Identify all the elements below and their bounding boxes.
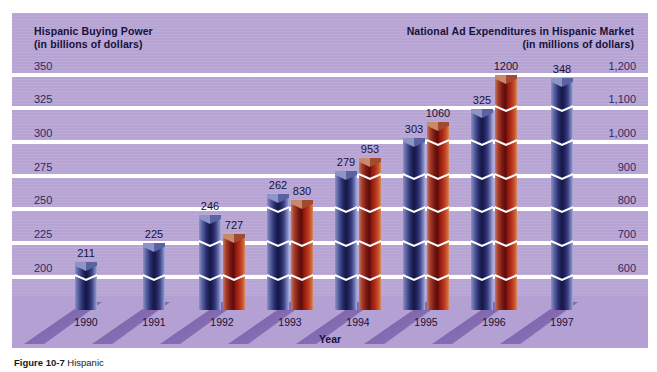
value-label-ad-spend: 830 [278,185,326,197]
x-axis-tick: 1995 [396,316,456,328]
left-axis-tick: 300 [34,128,74,139]
bar-body [359,158,381,310]
bar-top-left-face [143,243,154,252]
left-axis-tick: 225 [34,229,74,240]
bar-ad-spend [359,158,381,310]
right-axis-title: National Ad Expenditures in Hispanic Mar… [407,25,634,51]
bar-ad-spend [223,234,245,310]
bar-face [471,109,493,310]
bar-top-left-face [291,200,302,209]
right-axis-tick: 600 [592,263,636,274]
left-axis-tick: 200 [34,263,74,274]
bar-top-notch [223,234,245,243]
bar-ad-spend [495,75,517,310]
right-axis-tick: 1,200 [592,61,636,72]
bar-buying-power [267,194,289,310]
bar-face [143,243,165,310]
bar-top-left-face [359,158,370,167]
bar-face [495,75,517,310]
bar-top-left-face [267,194,278,203]
right-axis-title-line1: National Ad Expenditures in Hispanic Mar… [407,25,634,38]
bar-top-left-face [335,171,346,180]
bar-top-notch [75,262,97,271]
bar-body [291,200,313,310]
bar-top-notch [335,171,357,180]
left-axis-tick: 325 [34,94,74,105]
bar-top-left-face [75,262,86,271]
bar-ad-spend [291,200,313,310]
left-axis-title: Hispanic Buying Power (in billions of do… [34,25,153,51]
bar-body [223,234,245,310]
bar-body [495,75,517,310]
bar-top-left-face [223,234,234,243]
bar-top-left-face [471,109,482,118]
figure-container: 3503253002752502252001,2001,1001,0009008… [0,0,657,372]
value-label-ad-spend: 1060 [414,107,462,119]
x-axis-tick: 1996 [464,316,524,328]
bar-top-right-face [346,171,357,180]
bar-body [427,122,449,310]
bar-top-right-face [86,262,97,271]
bar-face [427,122,449,310]
figure-caption-text: Hispanic [67,357,103,368]
bar-body [551,78,573,310]
bar-face [403,138,425,310]
bar-top-left-face [427,122,438,131]
bar-face [335,171,357,310]
right-axis-title-line2: (in millions of dollars) [407,38,634,51]
plot-area: 3503253002752502252001,2001,1001,0009008… [12,13,648,348]
value-label-buying-power: 246 [186,200,234,212]
bar-top-left-face [403,138,414,147]
value-label-buying-power: 348 [538,63,586,75]
bar-ad-spend [427,122,449,310]
bar-body [471,109,493,310]
bar-top-right-face [506,75,517,84]
x-axis-tick: 1997 [532,316,592,328]
bar-body [335,171,357,310]
bar-top-left-face [199,215,210,224]
bar-body [143,243,165,310]
bar-top-notch [495,75,517,84]
value-label-ad-spend: 953 [346,143,394,155]
chart-panel: 3503253002752502252001,2001,1001,0009008… [12,13,648,348]
bar-top-notch [471,109,493,118]
bar-face [223,234,245,310]
bar-top-notch [403,138,425,147]
value-label-buying-power: 225 [130,228,178,240]
left-axis-tick: 250 [34,195,74,206]
figure-number: Figure 10-7 [14,357,65,368]
x-axis-title: Year [270,333,390,345]
left-axis-tick: 350 [34,61,74,72]
right-axis-tick: 900 [592,162,636,173]
right-axis-tick: 700 [592,229,636,240]
bar-top-right-face [482,109,493,118]
figure-caption: Figure 10-7 Hispanic [14,357,104,369]
bar-buying-power [471,109,493,310]
bar-face [551,78,573,310]
bar-buying-power [403,138,425,310]
left-axis-tick: 275 [34,162,74,173]
bar-top-notch [143,243,165,252]
value-label-buying-power: 211 [62,247,110,259]
bar-top-right-face [438,122,449,131]
value-label-ad-spend: 1200 [482,60,530,72]
bar-body [75,262,97,310]
bar-top-right-face [302,200,313,209]
bar-top-left-face [495,75,506,84]
bar-face [267,194,289,310]
bar-face [359,158,381,310]
bar-buying-power [551,78,573,310]
bar-top-notch [551,78,573,87]
bar-buying-power [335,171,357,310]
bar-top-notch [359,158,381,167]
left-axis-title-line1: Hispanic Buying Power [34,25,153,38]
left-axis-title-line2: (in billions of dollars) [34,38,153,51]
bar-top-notch [291,200,313,209]
bar-buying-power [75,262,97,310]
bar-top-left-face [551,78,562,87]
bar-top-right-face [154,243,165,252]
bar-face [291,200,313,310]
right-axis-tick: 1,100 [592,94,636,105]
bar-top-notch [427,122,449,131]
bar-buying-power [143,243,165,310]
